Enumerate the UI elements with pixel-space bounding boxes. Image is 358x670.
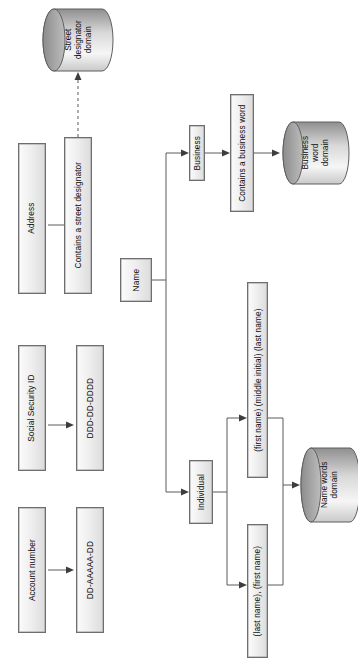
edge-format1-to-namedomain <box>268 418 283 485</box>
arrowhead-name-domain <box>292 482 300 489</box>
arrowhead-format2 <box>239 582 247 589</box>
node-account-number[interactable]: Account number <box>18 507 46 633</box>
node-account-pattern-label: DD-AAAAA-DD <box>86 541 94 599</box>
node-business[interactable]: Business <box>189 125 205 181</box>
node-individual-format-1[interactable]: (first name) (middle initial) (last name… <box>247 282 268 478</box>
node-individual-format-2-label: (last name), (first name) <box>253 546 261 637</box>
node-individual-label: Individual <box>197 474 205 510</box>
node-social-security-id-label: Social Security ID <box>28 374 36 441</box>
node-social-pattern-label: DDD-DD-DDDD <box>86 378 94 439</box>
node-social-security-id[interactable]: Social Security ID <box>18 345 46 471</box>
node-address[interactable]: Address <box>18 143 46 294</box>
node-account-number-label: Account number <box>28 539 36 601</box>
edge-format2-to-namedomain <box>268 485 283 585</box>
arrowhead-individual <box>181 489 189 496</box>
arrowhead-format1 <box>239 415 247 422</box>
arrowhead-ssn <box>66 422 74 429</box>
node-address-label: Address <box>28 203 36 234</box>
node-name-label: Name <box>132 269 140 292</box>
node-account-pattern[interactable]: DD-AAAAA-DD <box>76 507 104 633</box>
arrowhead-street-domain <box>75 72 82 80</box>
connector-layer <box>0 0 358 670</box>
arrowhead-business-rule <box>222 150 230 157</box>
node-individual-format-1-label: (first name) (middle initial) (last name… <box>253 308 261 451</box>
node-address-rule[interactable]: Contains a street designator <box>64 137 92 294</box>
datastore-name-words-domain: Name words domain <box>300 447 358 523</box>
node-business-rule-label: Contains a business word <box>238 104 246 201</box>
node-social-pattern[interactable]: DDD-DD-DDDD <box>76 345 104 471</box>
arrowhead-business <box>181 150 189 157</box>
node-individual[interactable]: Individual <box>189 460 213 524</box>
node-business-label: Business <box>193 136 201 170</box>
datastore-business-word-domain: Business word domain <box>282 121 350 185</box>
node-name[interactable]: Name <box>120 258 152 302</box>
arrowhead-business-domain <box>272 150 280 157</box>
datastore-street-designator-domain: Street designator domain <box>42 8 114 72</box>
node-individual-format-2[interactable]: (last name), (first name) <box>247 524 268 658</box>
node-business-rule[interactable]: Contains a business word <box>230 94 254 212</box>
diagram-canvas: Street designator domain Business word d… <box>0 0 358 670</box>
arrowhead-account <box>66 567 74 574</box>
node-address-rule-label: Contains a street designator <box>74 162 82 269</box>
